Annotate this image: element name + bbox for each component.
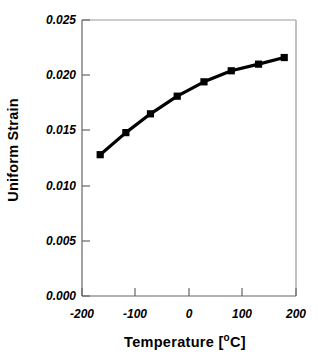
x-tick-label: 200 <box>266 308 318 320</box>
x-tick-label-group: -200 -100 0 100 200 <box>0 0 318 360</box>
x-axis-title-tail: C] <box>230 334 246 350</box>
x-axis-title: Temperature [oC] <box>60 334 310 350</box>
x-tick-label: 0 <box>159 308 219 320</box>
x-tick-label: -200 <box>52 308 112 320</box>
x-tick-label: 100 <box>212 308 272 320</box>
chart-container: Uniform Strain 0.025 0.020 0.015 0.010 0… <box>0 0 318 360</box>
x-tick-label: -100 <box>105 308 165 320</box>
x-axis-title-main: Temperature [ <box>124 334 224 350</box>
